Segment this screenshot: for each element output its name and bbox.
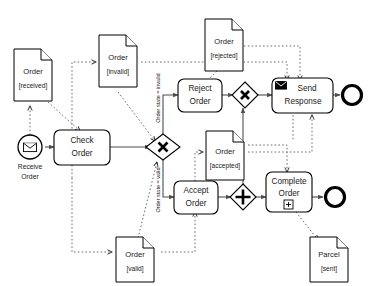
- task-label-line2: Response: [285, 97, 322, 106]
- data-object-order-rejected[interactable]: Order [rejected]: [205, 19, 243, 71]
- data-object-name: Order: [214, 37, 234, 46]
- task-label-line2: Order: [279, 189, 300, 198]
- task-label-line1: Accept: [183, 186, 209, 195]
- data-object-name: Parcel: [318, 250, 340, 259]
- gateway-parallel-join[interactable]: [230, 184, 256, 210]
- flow-split-to-reject: [163, 95, 178, 135]
- task-label-line1: Send: [297, 84, 317, 93]
- data-object-state: [sent]: [321, 265, 337, 273]
- assoc-complete-to-parcel: [296, 212, 318, 240]
- assoc-order-valid-to-accept: [161, 212, 195, 252]
- data-object-name: Order: [23, 67, 43, 76]
- data-object-name: Order: [108, 53, 128, 62]
- plus-box-icon: [284, 200, 293, 209]
- task-check-order[interactable]: Check Order: [54, 130, 110, 165]
- data-object-order-received[interactable]: Order [received]: [14, 49, 52, 101]
- end-event-response[interactable]: [343, 86, 362, 105]
- assoc-order-rejected-to-send: [244, 46, 300, 80]
- assoc-order-accepted-to-complete: [248, 145, 287, 172]
- task-label-line1: Complete: [271, 177, 306, 186]
- task-label-line1: Check: [70, 136, 94, 145]
- start-event-label-line1: Receive: [18, 163, 43, 170]
- start-event-receive-order[interactable]: Receive Order: [18, 135, 43, 180]
- assoc-check-to-order-valid: [72, 178, 112, 252]
- data-object-state: [rejected]: [210, 52, 237, 60]
- task-complete-order[interactable]: Complete Order: [266, 172, 312, 212]
- data-object-state: [received]: [19, 82, 48, 90]
- task-accept-order[interactable]: Accept Order: [174, 181, 218, 214]
- data-object-name: Order: [215, 147, 235, 156]
- bpmn-diagram-svg: Order [received] Order [invalid] Order […: [0, 0, 371, 286]
- task-reject-order[interactable]: Reject Order: [178, 79, 222, 112]
- envelope-open-icon: [24, 143, 37, 151]
- assoc-order-received-to-check: [48, 102, 80, 131]
- flow-split-to-accept: [163, 159, 174, 197]
- task-label-line1: Reject: [188, 84, 212, 93]
- assoc-order-valid-to-split: [138, 162, 157, 238]
- start-event-label-line2: Order: [21, 173, 39, 180]
- envelope-closed-icon: [276, 82, 287, 90]
- flow-condition-valid-label: Order state = valid: [155, 167, 161, 212]
- flow-condition-valid: Order state = valid: [155, 167, 161, 212]
- gateway-exclusive-merge[interactable]: [232, 82, 258, 108]
- task-label-line2: Order: [190, 97, 211, 106]
- task-label-line2: Order: [186, 199, 207, 208]
- bpmn-diagram-canvas: Order [received] Order [invalid] Order […: [0, 0, 371, 286]
- data-object-order-invalid[interactable]: Order [invalid]: [99, 35, 137, 87]
- data-object-order-valid[interactable]: Order [valid]: [116, 237, 154, 282]
- data-object-state: [invalid]: [107, 68, 130, 76]
- gateway-exclusive-split[interactable]: [146, 134, 180, 160]
- task-send-response[interactable]: Send Response: [272, 78, 333, 113]
- data-object-name: Order: [125, 250, 145, 259]
- data-object-order-accepted[interactable]: Order [accepted]: [206, 131, 244, 180]
- task-label-line2: Order: [72, 149, 93, 158]
- data-object-state: [valid]: [126, 265, 143, 273]
- flow-condition-invalid-label: Order state = invalid: [155, 73, 161, 122]
- data-object-parcel-sent[interactable]: Parcel [sent]: [310, 237, 348, 282]
- assoc-order-invalid-to-split: [118, 92, 155, 141]
- flow-condition-invalid: Order state = invalid: [155, 73, 161, 122]
- assoc-order-accepted-to-send-response: [248, 115, 312, 152]
- data-object-state: [accepted]: [210, 162, 241, 170]
- end-event-complete[interactable]: [326, 188, 345, 207]
- assoc-accept-to-order-accepted: [195, 152, 203, 185]
